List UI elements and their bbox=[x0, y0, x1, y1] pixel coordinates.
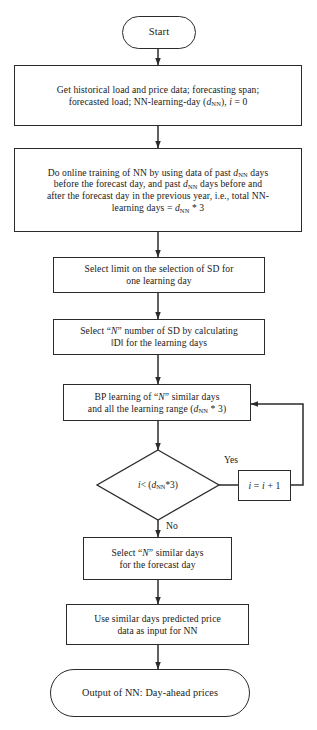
node-select-similar-days[interactable]: Select “N” similar daysfor the forecast … bbox=[83, 537, 232, 580]
node-online-training[interactable]: Do online training of NN by using data o… bbox=[14, 148, 302, 232]
edge-label-no: No bbox=[166, 521, 178, 531]
node-start[interactable]: Start bbox=[122, 16, 196, 49]
node-increment-counter[interactable]: i = i + 1 bbox=[238, 470, 291, 501]
node-get-historical-data-label: Get historical load and price data; fore… bbox=[53, 84, 264, 107]
node-start-label: Start bbox=[145, 26, 173, 39]
node-output-label: Output of NN: Day-ahead prices bbox=[78, 687, 222, 699]
node-use-similar-days-input[interactable]: Use similar days predicted pricedata as … bbox=[66, 604, 249, 645]
node-select-limit-label: Select limit on the selection of SD foro… bbox=[81, 263, 238, 286]
node-bp-learning[interactable]: BP learning of “N” similar daysand all t… bbox=[63, 384, 251, 421]
node-use-similar-days-input-label: Use similar days predicted pricedata as … bbox=[90, 613, 225, 636]
node-increment-counter-label: i = i + 1 bbox=[244, 480, 284, 492]
node-decision-loop-condition-label: i < ( dNN *3) bbox=[97, 450, 219, 520]
node-select-similar-days-label: Select “N” similar daysfor the forecast … bbox=[107, 547, 207, 570]
node-select-n-number-sd[interactable]: Select “N” number of SD by calculating‖D… bbox=[53, 319, 265, 355]
node-online-training-label: Do online training of NN by using data o… bbox=[43, 167, 273, 214]
node-bp-learning-label: BP learning of “N” similar daysand all t… bbox=[84, 391, 230, 414]
flowchart-diagram: Start Get historical load and price data… bbox=[0, 0, 317, 730]
node-get-historical-data[interactable]: Get historical load and price data; fore… bbox=[14, 65, 302, 126]
node-select-limit[interactable]: Select limit on the selection of SD foro… bbox=[53, 257, 265, 293]
node-output[interactable]: Output of NN: Day-ahead prices bbox=[50, 669, 250, 717]
node-select-n-number-sd-label: Select “N” number of SD by calculating‖D… bbox=[76, 325, 242, 348]
node-decision-loop-condition[interactable]: i < ( dNN *3) bbox=[97, 450, 219, 520]
edge-label-yes: Yes bbox=[224, 455, 238, 465]
